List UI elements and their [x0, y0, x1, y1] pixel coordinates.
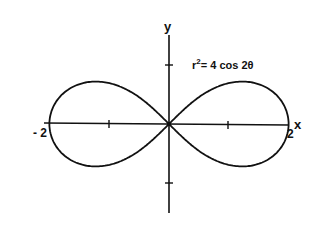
x-min-label: - 2 — [33, 127, 47, 139]
lemniscate-chart: y x - 2 2 r2= 4 cos 2θ — [0, 0, 326, 231]
origin-point — [167, 122, 171, 126]
plot-area — [0, 0, 326, 231]
y-axis-label: y — [164, 20, 171, 33]
x-axis-label: x — [294, 118, 301, 131]
x-max-label: 2 — [287, 128, 294, 140]
equation-label: r2= 4 cos 2θ — [192, 57, 253, 71]
x-axis — [44, 123, 289, 125]
